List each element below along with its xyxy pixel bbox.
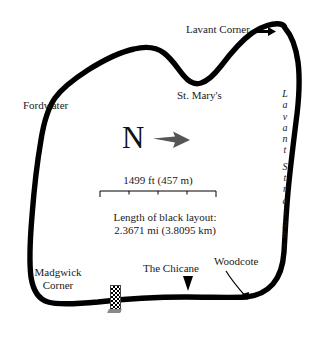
lavant-straight-letter: a xyxy=(277,99,293,110)
madgwick-line2: Corner xyxy=(43,279,74,291)
lavant-straight-letter: S xyxy=(277,161,293,172)
label-woodcote: Woodcote xyxy=(214,255,258,267)
scale-bar-group: 1499 ft (457 m) xyxy=(99,174,217,198)
madgwick-line1: Madgwick xyxy=(34,266,81,278)
lavant-straight-letter: n xyxy=(277,133,293,144)
length-line2: 2.3671 mi (3.8095 km) xyxy=(114,224,216,236)
chicane-pointer-icon xyxy=(183,276,193,291)
lavant-straight-letter: a xyxy=(277,195,293,206)
lavant-straight-letter: v xyxy=(277,111,293,122)
lavant-straight-letter: L xyxy=(277,88,293,99)
lavant-straight-letter: h xyxy=(277,229,293,240)
compass-rose: N xyxy=(122,122,191,153)
label-lavant-corner: Lavant Corner xyxy=(186,23,250,35)
label-the-chicane: The Chicane xyxy=(143,262,199,274)
lavant-straight-letter: t xyxy=(277,240,293,251)
label-lavant-straight: L a v a n t S t r a i g h t xyxy=(277,88,293,251)
lavant-straight-letter: t xyxy=(277,144,293,155)
label-st-marys: St. Mary's xyxy=(177,89,222,101)
compass-north-letter: N xyxy=(122,122,144,153)
checkered-flag-icon xyxy=(110,285,121,312)
length-line1: Length of black layout: xyxy=(114,211,217,223)
lavant-straight-letter: r xyxy=(277,183,293,194)
label-fordwater: Fordwater xyxy=(23,99,68,111)
start-finish-marker xyxy=(110,285,119,313)
label-madgwick-corner: Madgwick Corner xyxy=(23,266,93,291)
arrow-right-icon xyxy=(153,131,191,149)
scale-caption: 1499 ft (457 m) xyxy=(99,174,217,186)
length-caption: Length of black layout: 2.3671 mi (3.809… xyxy=(95,211,235,237)
circuit-map: Lavant Corner Fordwater St. Mary's Madgw… xyxy=(0,0,330,339)
lavant-straight-letter: t xyxy=(277,172,293,183)
start-finish-shadow xyxy=(107,309,122,313)
scale-bar-ruler xyxy=(99,188,217,198)
lavant-straight-letter: i xyxy=(277,206,293,217)
lavant-straight-letter: a xyxy=(277,122,293,133)
lavant-straight-letter: g xyxy=(277,217,293,228)
